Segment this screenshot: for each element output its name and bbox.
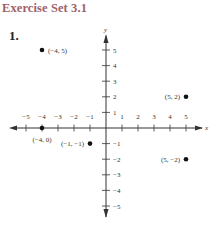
x-tick-label: 4	[168, 113, 172, 121]
x-axis-label: x	[204, 124, 209, 132]
data-point	[184, 95, 189, 100]
y-tick-label: −5	[113, 203, 121, 211]
y-tick-label: 1	[113, 109, 117, 117]
x-tick-label: 2	[136, 113, 140, 121]
x-tick-label: −5	[22, 113, 30, 121]
y-tick-label: 2	[113, 93, 117, 101]
x-tick-label: −1	[86, 113, 94, 121]
point-label: (−1, −1)	[61, 140, 85, 148]
coordinate-plane: x y −5−4−3−2−11234554321−1−2−3−4−5 (−4, …	[0, 0, 211, 246]
y-axis-down-arrow-icon	[104, 209, 109, 218]
point-label: (5, 2)	[165, 93, 181, 101]
x-axis-left-arrow-icon	[9, 126, 17, 131]
x-tick-label: −2	[70, 113, 78, 121]
data-points: (−4, 5)(5, 2)(−4, 0)(−1, −1)(5, −2)	[32, 47, 188, 164]
data-point	[184, 157, 189, 162]
y-tick-label: −4	[113, 187, 121, 195]
point-label: (5, −2)	[161, 156, 181, 164]
y-tick-label: −3	[113, 171, 121, 179]
point-label: (−4, 5)	[48, 47, 68, 55]
point-label: (−4, 0)	[32, 136, 52, 144]
y-tick-label: 3	[113, 78, 117, 86]
data-point	[40, 126, 45, 131]
x-tick-label: 3	[152, 113, 156, 121]
y-tick-label: 5	[113, 47, 117, 55]
data-point	[88, 141, 93, 146]
y-axis-label: y	[103, 26, 108, 34]
x-tick-label: 5	[184, 113, 188, 121]
y-tick-label: 4	[113, 62, 117, 70]
y-axis-up-arrow-icon	[104, 34, 109, 43]
x-tick-label: −4	[38, 113, 46, 121]
x-axis-right-arrow-icon	[195, 126, 203, 131]
y-tick-label: −2	[113, 156, 121, 164]
x-tick-label: 1	[120, 113, 124, 121]
data-point	[40, 48, 45, 53]
x-tick-label: −3	[54, 113, 62, 121]
y-tick-label: −1	[113, 140, 121, 148]
